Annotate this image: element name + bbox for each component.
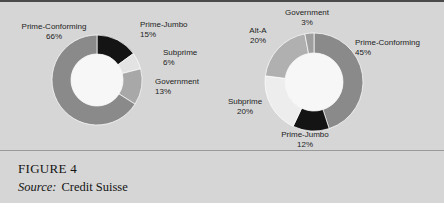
right-label-prime-conforming-name: Prime-Conforming	[355, 38, 420, 47]
source-line: Source:Credit Suisse	[18, 180, 128, 195]
source-label: Source:	[18, 180, 56, 194]
right-label-prime-jumbo-value: 12%	[262, 140, 348, 150]
figure-panel: Prime-Jumbo 15% Subprime 6% Government 1…	[0, 0, 444, 203]
right-label-prime-conforming: Prime-Conforming 45%	[355, 38, 420, 57]
caption-block: FIGURE 4 Source:Credit Suisse	[0, 151, 444, 203]
donut-hole	[285, 53, 343, 111]
right-label-alt-a: Alt-A 20%	[240, 26, 276, 45]
right-label-prime-conforming-value: 45%	[355, 48, 420, 58]
right-label-alt-a-name: Alt-A	[249, 26, 266, 35]
right-label-government: Government 3%	[270, 8, 344, 27]
right-label-subprime: Subprime 20%	[222, 97, 268, 116]
right-label-subprime-name: Subprime	[228, 97, 262, 106]
right-donut-chart	[0, 2, 444, 150]
right-label-government-name: Government	[285, 8, 329, 17]
right-label-subprime-value: 20%	[222, 107, 268, 117]
right-label-alt-a-value: 20%	[240, 36, 276, 46]
figure-title: FIGURE 4	[18, 161, 77, 177]
right-label-prime-jumbo-name: Prime-Jumbo	[281, 130, 329, 139]
chart-area: Prime-Jumbo 15% Subprime 6% Government 1…	[0, 2, 444, 150]
right-label-government-value: 3%	[270, 18, 344, 28]
right-label-prime-jumbo: Prime-Jumbo 12%	[262, 130, 348, 149]
source-value: Credit Suisse	[61, 180, 127, 194]
